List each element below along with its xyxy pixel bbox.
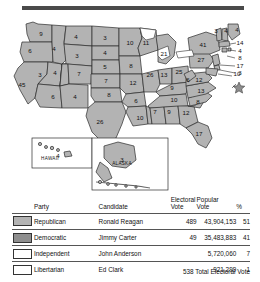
aleutian-isle-2 bbox=[107, 183, 110, 186]
top-divider-rule bbox=[22, 6, 244, 10]
table-row: RepublicanRonald Reagan48943,904,15351 bbox=[12, 213, 250, 229]
table-row: DemocraticJimmy Carter4935,483,88341 bbox=[12, 229, 250, 245]
state-votes-ri: 4 bbox=[238, 47, 242, 54]
state-votes-pa: 27 bbox=[198, 56, 205, 63]
state-ct bbox=[222, 48, 227, 52]
party-color-swatch-cell bbox=[12, 213, 34, 229]
election-map-page: HAWAII ALASKA 96453443467434578261081261… bbox=[0, 0, 260, 282]
results-table-wrap: Party Candidate Electoral Vote Popular V… bbox=[12, 196, 250, 277]
state-votes-mt: 4 bbox=[74, 33, 78, 40]
state-votes-mo: 12 bbox=[130, 79, 137, 86]
state-votes-ca: 45 bbox=[19, 81, 26, 88]
electoral-vote: 49 bbox=[171, 229, 197, 245]
state-votes-in: 13 bbox=[161, 71, 168, 78]
aleutian-isle-1 bbox=[98, 180, 101, 183]
candidate-name: Ronald Reagan bbox=[99, 213, 171, 229]
state-ma bbox=[219, 41, 230, 47]
total-electoral-vote-note: 538 Total Electoral Vote bbox=[110, 268, 250, 275]
state-votes-or: 6 bbox=[28, 47, 32, 54]
electoral-vote: 489 bbox=[171, 213, 197, 229]
results-table-head: Party Candidate Electoral Vote Popular V… bbox=[12, 196, 250, 213]
state-votes-ny: 41 bbox=[200, 41, 207, 48]
state-votes-ks: 7 bbox=[104, 77, 108, 84]
state-votes-wi: 11 bbox=[143, 39, 150, 46]
party-color-swatch-cell bbox=[12, 246, 34, 262]
hawaii-isle-2 bbox=[45, 146, 48, 149]
state-votes-nm: 4 bbox=[73, 93, 77, 100]
header-popular-line1: Popular bbox=[197, 196, 219, 203]
state-votes-nd: 3 bbox=[103, 34, 107, 41]
state-votes-ma: 14 bbox=[237, 39, 244, 46]
state-votes-ky: 9 bbox=[170, 84, 174, 91]
popular-vote: 5,720,060 bbox=[197, 246, 237, 262]
party-color-swatch bbox=[13, 249, 32, 259]
hawaii-isle-3 bbox=[50, 146, 53, 149]
dc-star-icon bbox=[233, 82, 245, 93]
us-map-svg: HAWAII ALASKA 96453443467434578261081261… bbox=[0, 12, 260, 192]
header-swatch bbox=[12, 196, 34, 213]
popular-vote: 35,483,883 bbox=[197, 229, 237, 245]
party-name: Independent bbox=[34, 246, 99, 262]
state-votes-ga: 12 bbox=[183, 109, 190, 116]
results-table: Party Candidate Electoral Vote Popular V… bbox=[12, 196, 250, 277]
aleutian-isle-3 bbox=[115, 184, 118, 187]
state-votes-hi: 4 bbox=[56, 152, 60, 159]
state-votes-tn: 10 bbox=[171, 96, 178, 103]
party-name: Republican bbox=[34, 213, 99, 229]
table-row: IndependentJohn Anderson5,720,0607 bbox=[12, 246, 250, 262]
electoral-map: HAWAII ALASKA 96453443467434578261081261… bbox=[0, 12, 260, 192]
state-votes-me: 4 bbox=[235, 26, 239, 33]
state-az bbox=[35, 84, 62, 108]
state-nj bbox=[212, 54, 220, 66]
state-votes-vt: 3 bbox=[214, 27, 218, 34]
table-header-row: Party Candidate Electoral Vote Popular V… bbox=[12, 196, 250, 213]
state-votes-va: 12 bbox=[196, 76, 203, 83]
state-ri bbox=[228, 48, 231, 51]
state-votes-ms: 7 bbox=[153, 108, 157, 115]
state-votes-ut: 4 bbox=[53, 69, 57, 76]
state-votes-wv: 6 bbox=[186, 76, 190, 83]
state-ut bbox=[60, 64, 69, 86]
header-popular-line2: Vote bbox=[197, 203, 210, 210]
header-percent: % bbox=[236, 196, 250, 213]
party-name: Libertarian bbox=[34, 262, 99, 278]
candidate-name: Jimmy Carter bbox=[99, 229, 171, 245]
state-votes-al: 9 bbox=[167, 108, 171, 115]
party-name: Democratic bbox=[34, 229, 99, 245]
percent-share: 7 bbox=[236, 246, 250, 262]
state-votes-wy: 3 bbox=[75, 52, 79, 59]
state-votes-la: 10 bbox=[137, 114, 144, 121]
header-electoral-line2: Vote bbox=[171, 203, 184, 210]
state-votes-ne: 5 bbox=[103, 63, 107, 70]
state-votes-az: 6 bbox=[51, 93, 55, 100]
electoral-vote bbox=[171, 246, 197, 262]
state-votes-sc: 8 bbox=[196, 98, 200, 105]
hawaii-isle-1 bbox=[38, 142, 41, 145]
state-or bbox=[20, 42, 53, 62]
state-votes-nj: 17 bbox=[237, 62, 244, 69]
percent-share: 41 bbox=[236, 229, 250, 245]
state-votes-ia: 8 bbox=[129, 62, 133, 69]
state-votes-ak: 3 bbox=[120, 156, 124, 163]
state-votes-ok: 8 bbox=[107, 91, 111, 98]
party-color-swatch-cell bbox=[12, 229, 34, 245]
header-electoral-vote: Electoral Vote bbox=[171, 196, 197, 213]
state-votes-co: 7 bbox=[77, 70, 81, 77]
popular-vote: 43,904,153 bbox=[197, 213, 237, 229]
state-votes-md: 10 bbox=[234, 70, 241, 77]
state-votes-ct: 8 bbox=[238, 54, 242, 61]
state-votes-nv: 3 bbox=[38, 71, 42, 78]
party-color-swatch-cell bbox=[12, 262, 34, 278]
party-color-swatch bbox=[13, 233, 32, 243]
state-votes-fl: 17 bbox=[196, 130, 203, 137]
state-votes-oh: 25 bbox=[176, 68, 183, 75]
state-votes-mn: 10 bbox=[127, 39, 134, 46]
map-insets: HAWAII ALASKA bbox=[32, 138, 168, 190]
state-votes-il: 26 bbox=[147, 71, 154, 78]
state-votes-id: 4 bbox=[52, 45, 56, 52]
party-color-swatch bbox=[13, 216, 32, 226]
candidate-name: John Anderson bbox=[99, 246, 171, 262]
state-mt bbox=[64, 26, 92, 46]
party-color-swatch bbox=[13, 265, 32, 275]
state-votes-nh: 4 bbox=[224, 27, 228, 34]
